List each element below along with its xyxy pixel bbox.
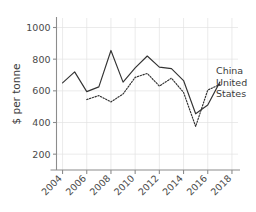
y-tick-label: 400 — [32, 117, 50, 128]
y-axis-title-group: $ per tonne — [10, 63, 22, 124]
legend-label: States — [216, 88, 246, 99]
x-tick-label: 2006 — [63, 173, 88, 198]
x-tick-label: 2018 — [208, 173, 233, 198]
y-tick-label: 600 — [32, 85, 50, 96]
chart-canvas: 2004006008001000 20042006200820102012201… — [0, 0, 256, 212]
x-tick-labels-group: 20042006200820102012201420162018 — [39, 173, 233, 198]
x-tick-label: 2016 — [184, 173, 209, 198]
legend-label: China — [216, 65, 243, 76]
y-tick-label: 800 — [32, 54, 50, 65]
y-tick-label: 200 — [32, 149, 50, 160]
x-tick-label: 2008 — [87, 173, 112, 198]
legend-label: United — [216, 77, 247, 88]
line-chart: 2004006008001000 20042006200820102012201… — [0, 0, 256, 212]
series-paths-group — [63, 50, 220, 126]
tick-marks-group — [53, 28, 232, 175]
y-tick-labels-group: 2004006008001000 — [26, 22, 50, 160]
x-tick-label: 2010 — [112, 173, 137, 198]
y-axis-title: $ per tonne — [10, 63, 22, 124]
series-line-china — [63, 50, 220, 113]
x-tick-label: 2012 — [136, 173, 161, 198]
x-tick-label: 2004 — [39, 173, 64, 198]
legend-group: ChinaUnitedStates — [216, 65, 247, 99]
x-tick-label: 2014 — [160, 173, 185, 198]
series-line-united-states — [87, 73, 220, 126]
axis-lines-group — [51, 17, 241, 170]
y-tick-label: 1000 — [26, 22, 50, 33]
gridlines-group — [57, 18, 239, 170]
